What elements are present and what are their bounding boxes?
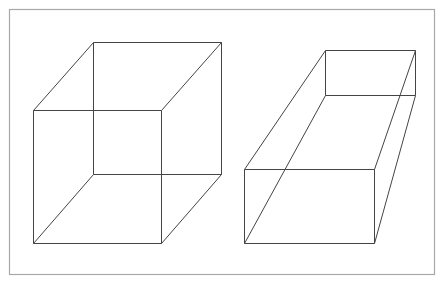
depth-edge [375, 96, 416, 244]
right-box [245, 51, 416, 244]
left-cube [34, 43, 222, 244]
wireframe-boxes-diagram [0, 0, 443, 281]
depth-edge [34, 43, 94, 111]
shapes-group [34, 43, 416, 244]
depth-edge [162, 43, 222, 111]
depth-edge [34, 175, 94, 244]
depth-edge [245, 51, 326, 170]
depth-edge [162, 175, 222, 244]
depth-edge [375, 51, 416, 170]
